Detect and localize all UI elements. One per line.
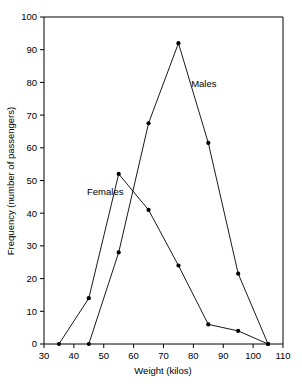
y-axis-title: Frequency (number of passengers) [5,107,16,255]
x-tick-label-100: 100 [245,350,261,361]
x-tick-label-80: 80 [188,350,199,361]
series-annotations: FemalesMales [87,78,217,197]
x-tick-label-90: 90 [218,350,229,361]
data-point-males-95 [236,272,240,276]
data-point-females-45 [87,296,91,300]
y-tick-label-50: 50 [26,175,37,186]
y-tick-label-40: 40 [26,208,37,219]
y-tick-label-20: 20 [26,273,37,284]
x-tick-label-60: 60 [128,350,139,361]
y-tick-label-90: 90 [26,44,37,55]
x-axis-tick-labels: 30405060708090100110 [39,350,291,361]
data-point-females-95 [236,329,240,333]
y-tick-label-60: 60 [26,142,37,153]
data-point-males-75 [176,41,180,45]
series-label-females: Females [87,186,124,197]
chart-figure: 0102030405060708090100 30405060708090100… [0,0,302,386]
data-point-females-75 [176,263,180,267]
data-point-females-85 [206,322,210,326]
y-tick-label-100: 100 [21,11,37,22]
x-tick-label-70: 70 [158,350,169,361]
series-label-males: Males [191,78,217,89]
y-tick-label-0: 0 [32,338,37,349]
data-point-females-35 [57,342,61,346]
x-tick-label-40: 40 [69,350,80,361]
data-point-females-65 [146,208,150,212]
y-tick-label-30: 30 [26,240,37,251]
data-point-males-55 [117,250,121,254]
data-point-males-85 [206,141,210,145]
x-tick-label-30: 30 [39,350,50,361]
frequency-weight-line-chart: 0102030405060708090100 30405060708090100… [0,0,302,386]
x-tick-label-110: 110 [275,350,290,361]
series-females [57,172,270,346]
data-point-males-45 [87,342,91,346]
y-axis-ticks [40,17,44,344]
y-axis-tick-labels: 0102030405060708090100 [21,11,37,349]
y-tick-label-10: 10 [26,306,37,317]
data-point-males-65 [146,121,150,125]
x-tick-label-50: 50 [98,350,109,361]
y-tick-label-80: 80 [26,77,37,88]
data-point-females-55 [117,172,121,176]
x-axis-ticks [44,344,283,348]
y-tick-label-70: 70 [26,110,37,121]
series-line-females [59,174,268,344]
x-axis-title: Weight (kilos) [134,365,191,376]
data-point-males-105 [266,342,270,346]
